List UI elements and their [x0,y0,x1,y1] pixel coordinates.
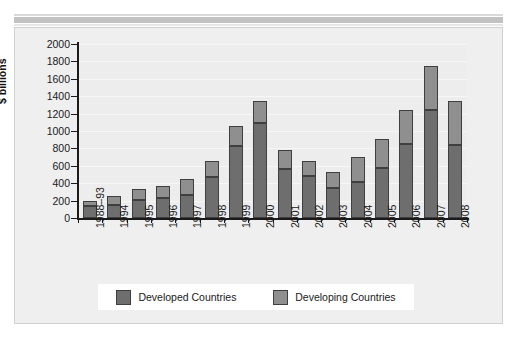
x-axis-tick-label: 2003 [337,205,349,228]
legend-item-developing[interactable]: Developing Countries [273,290,395,305]
y-axis-tick [71,114,77,115]
x-axis-tick-label: 1995 [143,205,155,228]
chart-page: 2000180016001400120010008006004002000 $ … [0,0,516,338]
y-axis-tick-label: 1000 [22,126,70,136]
x-axis-tick-label: 1999 [240,205,252,228]
y-axis-tick-label: 800 [22,143,70,153]
bar-group[interactable] [448,44,462,218]
x-axis-tick-label: 2001 [289,205,301,228]
legend-item-developed[interactable]: Developed Countries [116,290,236,305]
bar-series-group [78,44,467,218]
y-axis-tick-label: 0 [22,213,70,223]
bar-group[interactable] [180,44,194,218]
bar-group[interactable] [132,44,146,218]
bar-group[interactable] [351,44,365,218]
x-axis-tick-label: 1997 [191,205,203,228]
bar-group[interactable] [278,44,292,218]
y-axis-tick [71,44,77,45]
x-axis-tick-label: 1998 [216,205,228,228]
bar-segment-developing [302,161,316,175]
bar-segment-developed [424,110,438,218]
y-axis-tick-labels: 2000180016001400120010008006004002000 [20,0,70,338]
bar-segment-developing [278,150,292,169]
top-band-faint [14,24,503,26]
top-band-light [14,14,503,16]
bar-segment-developing [229,126,243,146]
bar-group[interactable] [156,44,170,218]
x-axis-tick-label: 2000 [264,205,276,228]
bar-segment-developing [448,101,462,145]
bar-group[interactable] [302,44,316,218]
x-axis-tick-label: 1994 [118,205,130,228]
bar-group[interactable] [253,44,267,218]
x-axis-tick-label: 2008 [459,205,471,228]
x-axis-tick [78,218,79,223]
y-axis-tick-label: 400 [22,178,70,188]
x-axis-tick-label: 2005 [386,205,398,228]
bar-group[interactable] [326,44,340,218]
top-band-dark [14,17,503,23]
bar-group[interactable] [424,44,438,218]
bar-segment-developing [205,161,219,177]
y-axis-tick [71,61,77,62]
y-axis-tick [71,148,77,149]
x-axis-tick-label: 2006 [410,205,422,228]
y-axis-tick-label: 200 [22,196,70,206]
bar-group[interactable] [399,44,413,218]
y-axis-tick [71,166,77,167]
y-axis-tick-label: 1400 [22,91,70,101]
bar-segment-developing [156,186,170,198]
bar-segment-developing [326,172,340,188]
bar-group[interactable] [375,44,389,218]
bar-group[interactable] [205,44,219,218]
y-axis-tick [71,201,77,202]
x-axis-tick-label: 1988–93 [94,187,106,228]
bar-segment-developing [399,110,413,143]
y-axis-tick [71,96,77,97]
bar-segment-developing [132,189,146,200]
y-axis-tick [71,79,77,80]
legend-swatch-developing [273,290,288,305]
y-axis-tick-label: 1200 [22,109,70,119]
bar-segment-developing [253,101,267,124]
legend-label-developing: Developing Countries [295,291,395,303]
x-axis-tick-label: 1996 [167,205,179,228]
x-axis-tick-label: 2002 [313,205,325,228]
bar-segment-developing [375,139,389,167]
chart-legend: Developed Countries Developing Countries [98,284,414,310]
x-axis-tick-label: 2007 [435,205,447,228]
y-axis-tick-label: 1600 [22,74,70,84]
y-axis-title: $ billions [0,58,8,104]
bar-group[interactable] [107,44,121,218]
bar-group[interactable] [229,44,243,218]
y-axis-tick-label: 600 [22,161,70,171]
bar-segment-developing [424,66,438,110]
legend-swatch-developed [116,290,131,305]
x-axis-tick-label: 2004 [362,205,374,228]
y-axis-tick-label: 2000 [22,39,70,49]
bar-segment-developing [107,196,121,205]
y-axis-tick [71,131,77,132]
legend-label-developed: Developed Countries [138,291,236,303]
y-axis-tick-label: 1800 [22,56,70,66]
y-axis-tick [71,183,77,184]
y-axis-tick [71,218,77,219]
bar-segment-developing [180,179,194,195]
bar-segment-developing [351,157,365,182]
